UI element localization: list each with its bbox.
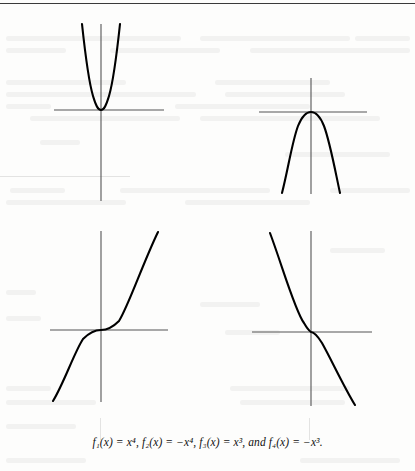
graph-f1 <box>54 24 166 202</box>
figure-graphs <box>0 0 415 471</box>
graph-f3 <box>50 231 170 403</box>
figure-page: f₁(x) = x⁴, f₂(x) = −x⁴, f₃(x) = x³, and… <box>0 0 415 471</box>
graph-f2-svg <box>259 78 369 196</box>
figure-caption: f₁(x) = x⁴, f₂(x) = −x⁴, f₃(x) = x³, and… <box>0 436 415 448</box>
graph-f2 <box>259 78 369 196</box>
graph-f3-svg <box>50 231 170 403</box>
curve-negative-x-cubed <box>270 233 355 405</box>
graph-f4-svg <box>252 231 374 407</box>
graph-f1-svg <box>54 24 166 202</box>
curve-x-cubed <box>53 232 158 401</box>
graph-f4 <box>252 231 374 407</box>
